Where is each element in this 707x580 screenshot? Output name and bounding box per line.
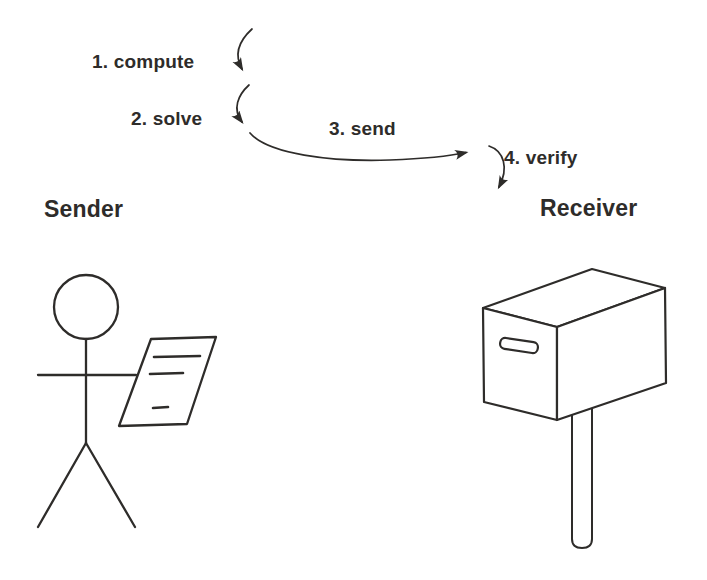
diagram-drawing: [0, 0, 707, 580]
document-icon: [119, 337, 216, 426]
step-label-compute: 1. compute: [92, 51, 194, 73]
step-label-solve: 2. solve: [131, 108, 202, 130]
arrow-step2-solve-icon: [237, 85, 249, 122]
step-label-send: 3. send: [329, 118, 396, 140]
mailbox-front-face: [483, 308, 557, 420]
stick-figure-icon: [38, 275, 136, 527]
mailbox-post: [572, 408, 592, 548]
diagram-canvas: 1. compute 2. solve 3. send 4. verify Se…: [0, 0, 707, 580]
sender-title: Sender: [44, 196, 123, 223]
mailbox-icon: [483, 269, 666, 548]
receiver-title: Receiver: [540, 195, 638, 222]
step-label-verify: 4. verify: [504, 147, 578, 169]
arrow-step4-verify-icon: [489, 146, 504, 187]
arrow-step1-compute-icon: [238, 29, 252, 69]
